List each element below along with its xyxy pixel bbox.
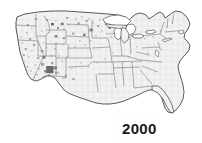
us-county-choropleth-map: [0, 0, 202, 143]
figure-panel: 2000: [0, 0, 202, 143]
year-caption: 2000: [122, 121, 157, 137]
